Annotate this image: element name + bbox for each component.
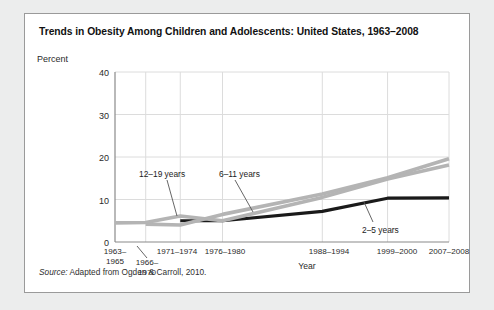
y-tick-label: 30 bbox=[87, 111, 109, 121]
x-tick-label: 1988–1994 bbox=[299, 247, 359, 257]
leader-line bbox=[235, 180, 253, 212]
leader-line bbox=[364, 202, 373, 222]
y-tick-label: 40 bbox=[87, 68, 109, 78]
x-axis-title: Year bbox=[277, 261, 337, 271]
series-line-2-5-years bbox=[180, 198, 449, 221]
series-annotation-label: 6–11 years bbox=[219, 169, 260, 179]
series-annotation-label: 2–5 years bbox=[362, 225, 399, 235]
series-annotation-label: 12–19 years bbox=[139, 169, 185, 179]
source-label: Source: bbox=[39, 267, 68, 277]
x-tick-label: 1999–2000 bbox=[367, 247, 427, 257]
figure-card: Trends in Obesity Among Children and Ado… bbox=[24, 13, 470, 293]
y-tick-label: 10 bbox=[87, 196, 109, 206]
source-note: Source: Adapted from Ogden & Carroll, 20… bbox=[39, 267, 206, 277]
x-tick-label: 2007–2008 bbox=[419, 247, 479, 257]
leader-line bbox=[167, 180, 177, 216]
y-tick-label: 20 bbox=[87, 153, 109, 163]
x-tick-label: 1976–1980 bbox=[195, 247, 255, 257]
source-text: Adapted from Ogden & Carroll, 2010. bbox=[68, 267, 207, 277]
